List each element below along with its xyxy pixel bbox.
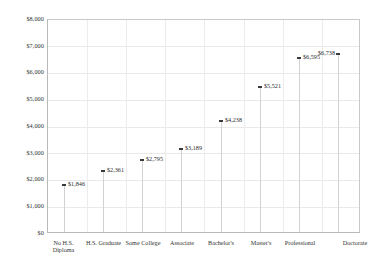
x-axis-tick-label: Professional [276,239,324,246]
data-point-label: $6,738 [311,50,335,56]
drop-line [260,87,261,232]
data-point-marker [219,120,223,122]
gridline-vertical [283,20,284,232]
data-point-label: $2,795 [146,156,163,162]
drop-line [142,160,143,232]
data-point-marker [258,86,262,88]
drop-line [181,149,182,232]
chart-container: $8,000 $7,000 $6,000 $5,000 $4,000 $3,00… [0,0,382,272]
y-axis-tick-label: $1,000 [0,203,44,209]
data-point-marker [336,53,340,55]
gridline-vertical [244,20,245,232]
y-axis-tick-label: $3,000 [0,150,44,156]
data-point-label: $2,361 [107,167,124,173]
data-point-label: $4,238 [225,117,242,123]
gridline-vertical [165,20,166,232]
drop-line [103,171,104,232]
y-axis-tick-label: $0 [0,230,44,236]
gridline-vertical [87,20,88,232]
y-axis-tick-label: $2,000 [0,176,44,182]
data-point-marker [297,57,301,59]
y-axis-tick-label: $5,000 [0,96,44,102]
gridline-vertical [126,20,127,232]
gridline-vertical [204,20,205,232]
data-point-marker [101,170,105,172]
data-point-marker [62,184,66,186]
drop-line [221,121,222,232]
drop-line [64,185,65,232]
y-axis-tick-label: $6,000 [0,69,44,75]
data-point-marker [179,148,183,150]
y-axis-tick-label: $4,000 [0,123,44,129]
drop-line [299,58,300,232]
plot-area: $1,846 $2,361 $2,795 $3,189 $4,238 $5,52… [47,19,360,233]
data-point-label: $5,521 [264,83,281,89]
drop-line [338,54,339,232]
data-point-label: $1,846 [68,181,85,187]
y-axis-tick-label: $7,000 [0,43,44,49]
data-point-marker [140,159,144,161]
data-point-label: $3,189 [185,145,202,151]
x-axis-tick-label: Doctorate [331,239,379,246]
y-axis-tick-label: $8,000 [0,16,44,22]
